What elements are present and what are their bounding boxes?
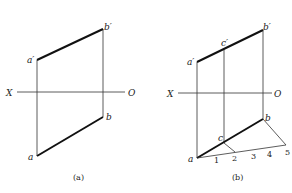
auxiliary-line (197, 145, 286, 158)
caption-b: (b) (232, 173, 243, 182)
division-4: 4 (267, 150, 272, 159)
figure-b: X O a′ c′ b′ a c b 1 2 3 4 5 (b) (166, 22, 290, 182)
division-5: 5 (285, 148, 290, 157)
point-a-prime-label: a′ (187, 57, 194, 67)
front-view-ab (37, 29, 103, 60)
point-c-prime-label: c′ (221, 38, 228, 48)
division-3: 3 (251, 152, 256, 161)
division-2: 2 (232, 154, 237, 163)
axis-x-label: X (166, 89, 174, 99)
axis-x-label: X (5, 88, 13, 98)
axis-o-label: O (128, 88, 136, 98)
point-b-label: b (265, 113, 271, 123)
point-c-label: c (218, 133, 223, 143)
connector-c-2 (224, 143, 235, 152)
caption-a: (a) (73, 173, 84, 182)
point-a-label: a (28, 152, 33, 162)
point-b-label: b (106, 112, 112, 122)
axis-o-label: O (274, 89, 282, 99)
front-view-ab (197, 30, 263, 62)
top-view-ab (37, 117, 103, 156)
point-b-prime-label: b′ (104, 22, 112, 32)
point-a-prime-label: a′ (27, 55, 34, 65)
division-1: 1 (214, 156, 219, 165)
point-b-prime-label: b′ (263, 22, 271, 32)
figure-a: X O a′ b′ a b (a) (5, 22, 136, 182)
projection-diagram: X O a′ b′ a b (a) X O a′ c′ b′ a c b 1 2… (0, 0, 292, 193)
point-a-label: a (188, 154, 193, 164)
